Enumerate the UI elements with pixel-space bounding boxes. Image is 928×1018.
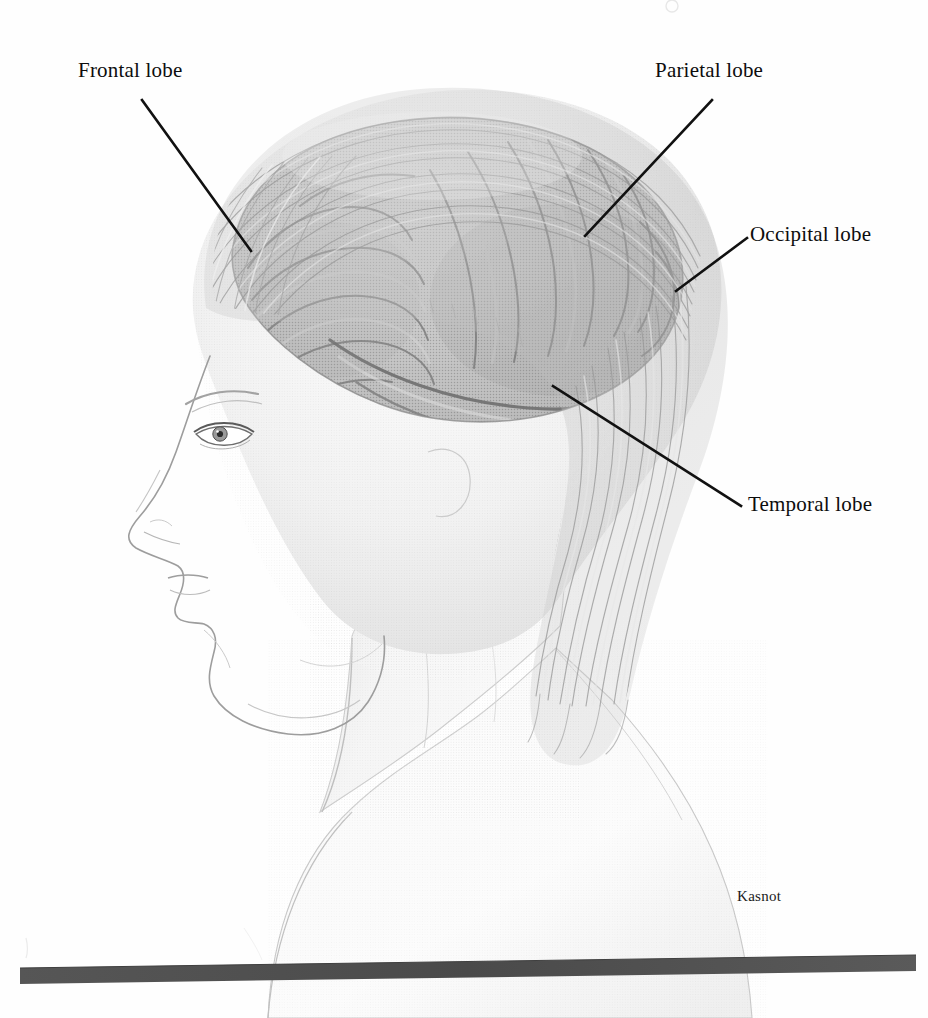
- anatomical-figure: Frontal lobe Parietal lobe Occipital lob…: [0, 0, 928, 1018]
- label-temporal-lobe: Temporal lobe: [748, 492, 872, 517]
- label-frontal-lobe: Frontal lobe: [78, 58, 182, 83]
- label-parietal-lobe: Parietal lobe: [655, 58, 763, 83]
- artist-signature: Kasnot: [737, 888, 781, 905]
- label-occipital-lobe: Occipital lobe: [750, 222, 871, 247]
